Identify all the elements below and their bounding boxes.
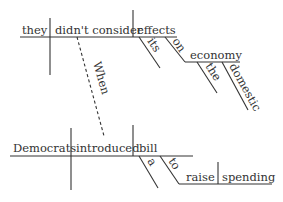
- sub-object: bill: [139, 141, 158, 155]
- modifier-a: a: [144, 155, 160, 168]
- modifier-its: its: [145, 35, 165, 55]
- sentence-diagram: they didn't consider effects its on econ…: [0, 0, 283, 202]
- infinitive-verb: raise: [186, 170, 215, 184]
- modifier-the: the: [202, 60, 224, 84]
- connector-when: When: [90, 60, 113, 97]
- infinitive-to: to: [166, 155, 184, 172]
- main-verb: didn't consider: [55, 23, 143, 37]
- infinitive-object: spending: [222, 170, 276, 184]
- main-subject: they: [22, 23, 48, 37]
- sub-verb: introduced: [76, 141, 140, 155]
- sub-subject: Democrats: [13, 141, 76, 155]
- prep-object: economy: [190, 48, 242, 62]
- preposition-on: on: [170, 35, 190, 55]
